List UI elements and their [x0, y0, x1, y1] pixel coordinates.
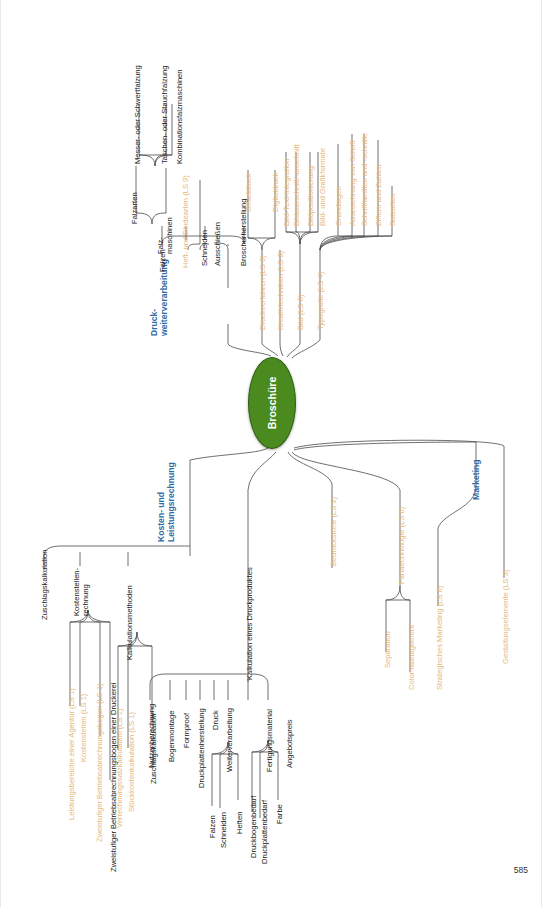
node-kostenstellen[interactable]: Kostenstellen (LS 1): [80, 694, 88, 762]
node-stueckkostenkalkulation[interactable]: Stückkostenkalkulation (LS 1): [128, 712, 136, 812]
node-nutzenberechnung[interactable]: Nutzenberechnung: [148, 704, 156, 768]
branch-druckverfahren[interactable]: Druckverfahren (LS 6): [259, 255, 267, 330]
node-druckplattenbedarf[interactable]: Druckplattenbedarf: [261, 800, 269, 864]
page-number: 585: [514, 865, 528, 875]
node-digitaldruck[interactable]: Digitaldruck: [272, 172, 280, 212]
branch-bedruckstoffe[interactable]: Bedruckstoffe (LS 9): [330, 497, 338, 566]
node-heft-und-bindearten[interactable]: Heft- und Bindearten (LS 9): [182, 175, 190, 268]
node-grundlagen[interactable]: Grundlagen: [335, 186, 343, 226]
node-ausschiessen[interactable]: Ausschießen: [214, 222, 222, 266]
branch-marketing[interactable]: Marketing: [472, 459, 481, 500]
node-kalkulation-druckprodukt[interactable]: Kalkulation eines Druckproduktes: [246, 567, 254, 680]
branch-gestaltungselemente[interactable]: Gestaltungselemente (LS 3): [502, 569, 510, 664]
node-leistungsbereiche-agentur[interactable]: Leistungsbereiche einer Agentur (LS 1): [68, 688, 76, 820]
node-color-management[interactable]: Color-Management: [408, 625, 416, 690]
node-satzarten[interactable]: Satzarten: [389, 193, 397, 226]
node-kombinationsfalzmaschinen[interactable]: Kombinationsfalzmaschinen: [176, 69, 184, 164]
node-kostenstellenrechnung[interactable]: Kostenstellen- rechnung: [73, 568, 90, 616]
branch-kreativtechniken[interactable]: Kreativtechniken (LS 3): [277, 251, 285, 330]
branch-bild[interactable]: Bild (LS 8): [297, 295, 305, 330]
node-wv-heften[interactable]: Heften: [236, 812, 244, 834]
node-verrechnungssatzkalkulation[interactable]: Verrechnungssatzkalkulation (LS 1): [116, 709, 124, 828]
node-falzarten[interactable]: Falzarten: [131, 192, 139, 224]
node-taschen-stauchfalzung[interactable]: Taschen- oder Stauchfalzung: [161, 66, 169, 164]
central-node-label: Broschüre: [266, 377, 278, 430]
mindmap-canvas: Broschüre Druck- weiterverarbeitung Falz…: [0, 0, 542, 907]
branch-typografie[interactable]: Typografie (LS 4): [317, 272, 325, 330]
node-schriftfamilien[interactable]: Schriftfamilien und -schnitte: [361, 133, 369, 226]
branch-farbtechnologie[interactable]: Farbtechnologie (LS 6): [398, 507, 406, 584]
node-druck[interactable]: Druck: [212, 710, 220, 730]
node-kalkulationsmethoden[interactable]: Kalkulationsmethoden: [126, 585, 134, 660]
node-weiterverarbeitung[interactable]: Weiterverarbeitung: [226, 708, 234, 772]
node-formproof[interactable]: Formproof: [183, 713, 191, 748]
node-separation[interactable]: Separation: [384, 631, 392, 668]
node-farbe[interactable]: Farbe: [276, 804, 284, 824]
node-auszeichnung-von-schrift[interactable]: Auszeichnung von Schrift: [349, 140, 357, 226]
node-bild-text-integration[interactable]: Bild-Text-Integration: [283, 158, 291, 226]
node-wv-schneiden[interactable]: Schneiden: [220, 812, 228, 848]
node-bild-grafikformate[interactable]: Bild- und Grafikformate: [319, 148, 327, 226]
central-node[interactable]: Broschüre: [248, 357, 296, 449]
node-angebotspreis[interactable]: Angebotspreis: [286, 719, 294, 768]
branch-kosten-leistungsrechnung[interactable]: Kosten- und Leistungsrechnung: [157, 462, 177, 542]
node-zuschlagskalkulation-top[interactable]: Zuschlagskalkulation: [41, 550, 49, 621]
node-schneiden[interactable]: Schneiden: [201, 230, 209, 266]
node-fertigungsmaterial[interactable]: Fertigungsmaterial: [266, 709, 274, 772]
node-ziffern-und-zahlen[interactable]: Ziffern und Zahlen: [375, 165, 383, 227]
node-druckbogenbedarf[interactable]: Druckbogenbedarf: [250, 796, 258, 858]
node-offsetdruck[interactable]: Offsetdruck: [245, 173, 253, 212]
node-bogenmontage[interactable]: Bogenmontage: [168, 710, 176, 762]
node-bab[interactable]: Zweistufiger Betriebsabrechnungsbogen (L…: [96, 683, 104, 842]
node-strategisches-marketing[interactable]: Strategisches Marketing (LS 6): [436, 586, 444, 690]
node-wv-falzen[interactable]: Falzen: [209, 815, 217, 838]
node-bildausschnitt[interactable]: Bildausschnitt/-anschnitt: [293, 144, 301, 226]
node-bildpositionierung[interactable]: Bildpositionierung: [307, 166, 315, 226]
node-messer-schwertfalzung[interactable]: Messer- oder Schwertfalzung: [134, 65, 142, 164]
node-druckplattenherstellung[interactable]: Druckplattenherstellung: [198, 708, 206, 788]
node-falzmaschinen[interactable]: Falz- maschinen: [157, 217, 174, 254]
